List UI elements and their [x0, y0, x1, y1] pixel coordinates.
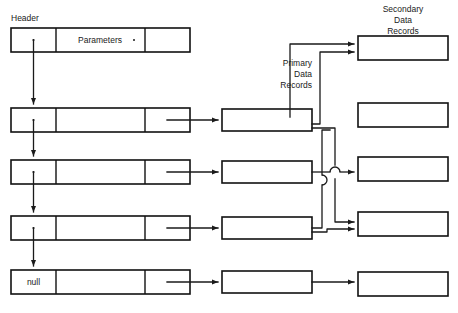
list-node-3 [11, 216, 190, 240]
secondary-record-4 [358, 212, 448, 236]
secondary-label-line1: Secondary [383, 4, 424, 14]
header-node: Parameters [11, 28, 190, 52]
list-node-1 [11, 108, 190, 132]
link-primary3-riser-lower [312, 185, 322, 228]
list-node-4: null [11, 270, 190, 294]
primary-record-4 [222, 271, 312, 293]
data-records-diagram: Header Primary Data Records Secondary Da… [0, 0, 458, 313]
secondary-label-line2: Data [394, 15, 412, 25]
link-primary1-to-secondary4 [335, 179, 354, 222]
primary-label-line3: Records [280, 80, 312, 90]
secondary-record-2 [358, 103, 448, 127]
secondary-label-line3: Records [387, 26, 419, 36]
link-primary1-to-secondary1b [312, 52, 354, 124]
secondary-record-1 [358, 36, 448, 60]
header-parameters-label: Parameters [78, 35, 122, 45]
primary-label-line2: Data [294, 69, 312, 79]
link-primary3-to-secondary4 [312, 229, 354, 232]
link-primary1-riser-top [312, 128, 335, 165]
primary-record-3 [222, 217, 312, 239]
header-parameters-dot [133, 39, 135, 41]
primary-record-2 [222, 161, 312, 183]
list-node-2 [11, 160, 190, 184]
primary-record-1 [222, 109, 312, 131]
header-label: Header [11, 13, 39, 23]
wire-hop-1 [330, 167, 340, 172]
secondary-record-3 [358, 157, 448, 181]
secondary-record-5 [358, 272, 448, 296]
wire-hop-2 [322, 175, 327, 185]
list-node-4-null-label: null [27, 277, 40, 287]
primary-label-line1: Primary [283, 58, 313, 68]
link-primary3-riser-upper [322, 130, 330, 175]
